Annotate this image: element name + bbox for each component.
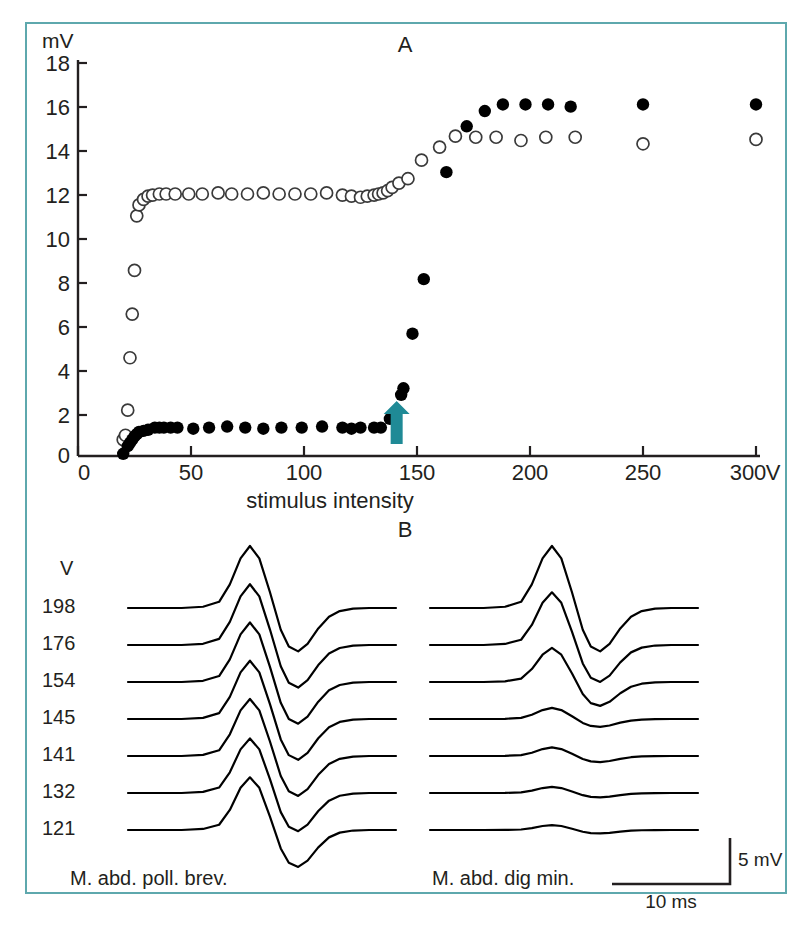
- data-point: [183, 188, 195, 200]
- voltage-label-141: 141: [42, 743, 75, 765]
- data-point: [242, 188, 254, 200]
- voltage-label-132: 132: [42, 780, 75, 802]
- x-axis-unit-label: V: [766, 460, 781, 485]
- x-tick-100: 100: [286, 460, 323, 485]
- y-axis-unit-label: mV: [42, 29, 74, 52]
- voltage-label-145: 145: [42, 706, 75, 728]
- voltage-label-176: 176: [42, 632, 75, 654]
- data-point: [257, 423, 269, 435]
- data-point: [122, 404, 134, 416]
- trace-group-left: [128, 546, 396, 867]
- emg-trace: [128, 699, 396, 796]
- data-point: [321, 187, 333, 199]
- scale-bar: [612, 838, 730, 884]
- data-point: [354, 421, 366, 433]
- data-point: [750, 133, 762, 145]
- data-point: [289, 188, 301, 200]
- y-tick-14: 14: [46, 139, 70, 164]
- data-point: [305, 188, 317, 200]
- emg-trace: [430, 592, 698, 682]
- data-point: [239, 421, 251, 433]
- data-point: [564, 100, 576, 112]
- voltage-label-198: 198: [42, 595, 75, 617]
- emg-trace: [430, 787, 698, 798]
- y-tick-8: 8: [58, 271, 70, 296]
- data-point: [397, 382, 409, 394]
- data-point: [226, 188, 238, 200]
- emg-trace: [430, 648, 698, 706]
- panel-a: A mV 18 16 14 12 10 8: [42, 29, 781, 513]
- emg-trace: [128, 738, 396, 831]
- data-point: [490, 131, 502, 143]
- emg-trace: [430, 747, 698, 762]
- panel-b: B V 198 176 154 145 141 132 121 M. abd. …: [42, 517, 783, 912]
- data-point: [540, 131, 552, 143]
- y-tick-6: 6: [58, 315, 70, 340]
- data-point: [449, 130, 461, 142]
- emg-trace: [430, 546, 698, 651]
- x-axis-ticks: [78, 446, 756, 456]
- data-point: [497, 98, 509, 110]
- figure-root: A mV 18 16 14 12 10 8: [0, 0, 812, 948]
- y-tick-12: 12: [46, 183, 70, 208]
- scale-bar-horizontal-label: 10 ms: [645, 891, 697, 912]
- data-point: [402, 173, 414, 185]
- scale-bar-vertical-label: 5 mV: [738, 849, 783, 870]
- y-axis-ticks: [78, 63, 87, 415]
- data-point: [169, 188, 181, 200]
- x-tick-150: 150: [399, 460, 436, 485]
- emg-trace: [128, 622, 396, 723]
- y-tick-10: 10: [46, 227, 70, 252]
- data-point: [569, 131, 581, 143]
- scatter-points-layer: [117, 98, 762, 460]
- data-point: [316, 420, 328, 432]
- data-point: [129, 264, 141, 276]
- y-tick-0: 0: [58, 443, 70, 468]
- data-point: [187, 423, 199, 435]
- voltage-label-154: 154: [42, 669, 75, 691]
- data-point: [637, 98, 649, 110]
- data-point: [221, 420, 233, 432]
- y-tick-16: 16: [46, 95, 70, 120]
- y-tick-4: 4: [58, 359, 70, 384]
- data-point: [406, 328, 418, 340]
- figure-canvas: A mV 18 16 14 12 10 8: [0, 0, 812, 948]
- emg-trace: [128, 777, 396, 867]
- voltage-column-header: V: [60, 557, 74, 579]
- data-point: [519, 98, 531, 110]
- y-tick-2: 2: [58, 403, 70, 428]
- panel-a-label: A: [398, 32, 413, 57]
- voltage-label-121: 121: [42, 817, 75, 839]
- data-point: [131, 210, 143, 222]
- data-point: [418, 273, 430, 285]
- data-point: [479, 105, 491, 117]
- emg-trace: [128, 661, 396, 760]
- data-point: [461, 120, 473, 132]
- data-point: [273, 188, 285, 200]
- y-tick-18: 18: [46, 51, 70, 76]
- x-tick-50: 50: [179, 460, 203, 485]
- data-point: [275, 421, 287, 433]
- right-muscle-label: M. abd. dig min.: [432, 867, 574, 889]
- data-point: [203, 421, 215, 433]
- data-point: [375, 421, 387, 433]
- data-point: [124, 352, 136, 364]
- data-point: [637, 138, 649, 150]
- panel-b-label: B: [398, 517, 413, 542]
- x-axis-title: stimulus intensity: [246, 488, 414, 513]
- left-muscle-label: M. abd. poll. brev.: [70, 867, 227, 889]
- data-point: [171, 421, 183, 433]
- data-point: [126, 308, 138, 320]
- emg-trace: [430, 708, 698, 727]
- data-point: [296, 421, 308, 433]
- data-point: [416, 154, 428, 166]
- data-point: [542, 98, 554, 110]
- emg-trace: [430, 825, 698, 833]
- data-point: [515, 135, 527, 147]
- data-point: [257, 187, 269, 199]
- x-tick-200: 200: [512, 460, 549, 485]
- data-point: [470, 131, 482, 143]
- data-point: [750, 98, 762, 110]
- data-point: [434, 141, 446, 153]
- x-tick-250: 250: [625, 460, 662, 485]
